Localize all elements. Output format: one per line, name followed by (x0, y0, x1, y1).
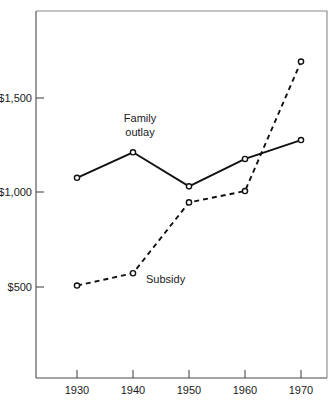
plot-frame-top-right (36, 11, 327, 378)
data-point (74, 283, 79, 288)
annotation-subsidy: Subsidy (146, 273, 186, 285)
x-tick-label-1930: 1930 (65, 384, 89, 396)
y-tick-label-1500: $1,500 (0, 92, 32, 104)
data-point (242, 156, 247, 161)
annotation-outlay: outlay (125, 126, 155, 138)
data-point (298, 137, 303, 142)
line-chart: $1,500 $1,000 $500 1930 1940 1950 1960 1… (0, 0, 335, 406)
data-point (242, 188, 247, 193)
annotation-family: Family (124, 112, 157, 124)
x-tick-label-1960: 1960 (233, 384, 257, 396)
data-point (130, 150, 135, 155)
x-tick-label-1970: 1970 (289, 384, 313, 396)
data-point (186, 200, 191, 205)
series-markers-subsidy (74, 59, 303, 288)
x-tick-label-1940: 1940 (121, 384, 145, 396)
y-tick-label-1000: $1,000 (0, 186, 32, 198)
x-tick-label-1950: 1950 (177, 384, 201, 396)
data-point (186, 184, 191, 189)
data-point (298, 59, 303, 64)
chart-screenshot: $1,500 $1,000 $500 1930 1940 1950 1960 1… (0, 0, 335, 406)
data-point (74, 175, 79, 180)
series-line-family-outlay (77, 140, 301, 186)
data-point (130, 271, 135, 276)
y-tick-label-500: $500 (8, 281, 32, 293)
series-line-subsidy (77, 62, 301, 286)
